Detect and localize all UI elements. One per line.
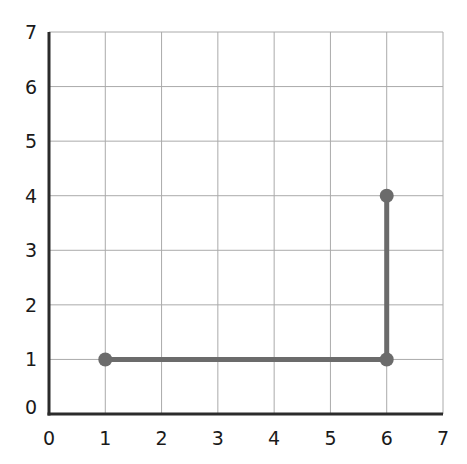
x-tick-label: 5: [324, 427, 336, 449]
data-point-marker: [98, 352, 112, 366]
x-tick-label: 2: [156, 427, 168, 449]
y-tick-label: 5: [25, 130, 37, 152]
x-tick-label: 3: [212, 427, 224, 449]
data-point-marker: [380, 189, 394, 203]
y-tick-label: 2: [25, 294, 37, 316]
x-tick-label: 4: [268, 427, 280, 449]
data-point-marker: [380, 352, 394, 366]
y-tick-label: 0: [25, 396, 37, 418]
y-tick-label: 3: [25, 239, 37, 261]
series-line: [105, 196, 386, 360]
x-tick-label: 0: [43, 427, 55, 449]
y-tick-label: 1: [25, 348, 37, 370]
x-axis-tick-labels: 01234567: [43, 427, 449, 449]
y-axis-tick-labels: 01234567: [25, 21, 37, 418]
x-tick-label: 6: [381, 427, 393, 449]
x-tick-label: 1: [99, 427, 111, 449]
data-series: [98, 189, 393, 367]
y-tick-label: 4: [25, 185, 37, 207]
y-tick-label: 6: [25, 76, 37, 98]
y-tick-label: 7: [25, 21, 37, 43]
x-tick-label: 7: [437, 427, 449, 449]
coordinate-grid-chart: 01234567 01234567: [0, 0, 467, 464]
